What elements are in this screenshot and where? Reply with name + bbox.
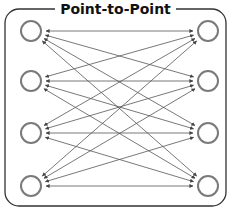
node-L2 [21, 71, 41, 91]
node-R4 [198, 176, 218, 196]
node-R2 [198, 71, 218, 91]
edges [42, 31, 196, 186]
point-to-point-diagram [0, 0, 231, 209]
node-L4 [21, 176, 41, 196]
node-R1 [198, 21, 218, 41]
node-L1 [21, 21, 41, 41]
node-R3 [198, 123, 218, 143]
node-L3 [21, 123, 41, 143]
